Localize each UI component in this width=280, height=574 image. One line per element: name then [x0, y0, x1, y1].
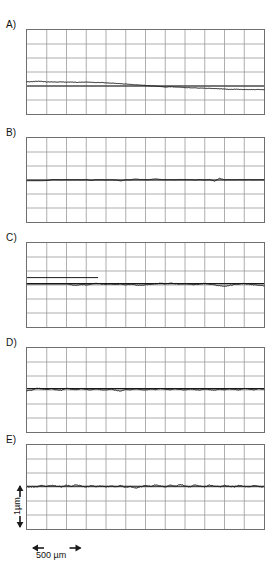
panel-label-e: E): [6, 435, 16, 445]
horizontal-scale-bar: [32, 539, 82, 549]
plot-panel-e: [26, 444, 265, 530]
plot-panel-a: [26, 29, 265, 115]
panel-label-b: B): [6, 128, 16, 138]
panel-label-d: D): [6, 338, 17, 348]
profile-trace: [27, 138, 264, 222]
profile-trace: [27, 243, 264, 327]
plot-panel-d: [26, 347, 265, 433]
panel-label-a: A): [6, 20, 16, 30]
plot-panel-c: [26, 242, 265, 328]
figure-root: A)B)C)D)E)1µm500 µm: [0, 0, 280, 574]
profile-trace: [27, 445, 264, 529]
profile-trace: [27, 30, 264, 114]
profile-trace: [27, 348, 264, 432]
plot-panel-b: [26, 137, 265, 223]
horizontal-scale-label: 500 µm: [36, 551, 66, 560]
panel-label-c: C): [6, 233, 17, 243]
vertical-scale-label: 1µm: [13, 497, 22, 515]
